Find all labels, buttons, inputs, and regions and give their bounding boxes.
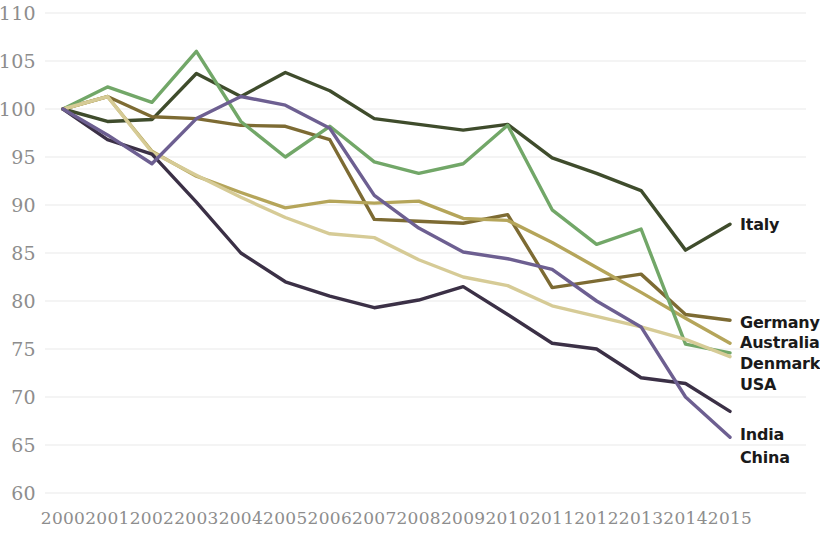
x-tick-label-2011: 2011 [530, 508, 574, 528]
series-label-china[interactable]: China [740, 448, 790, 467]
y-axis: 6065707580859095100105110 [0, 0, 36, 505]
series-label-denmark[interactable]: Denmark [740, 354, 820, 373]
series-label-italy[interactable]: Italy [740, 215, 779, 234]
x-tick-label-2013: 2013 [619, 508, 663, 528]
series-label-australia[interactable]: Australia [740, 333, 820, 352]
series-line-italy[interactable] [63, 73, 730, 251]
x-tick-label-2015: 2015 [708, 508, 752, 528]
y-tick-label-90: 90 [11, 194, 36, 216]
x-tick-label-2008: 2008 [396, 508, 440, 528]
y-tick-label-85: 85 [11, 242, 36, 264]
y-tick-label-105: 105 [0, 50, 36, 72]
x-tick-label-2000: 2000 [41, 508, 85, 528]
x-tick-label-2001: 2001 [85, 508, 129, 528]
x-tick-label-2006: 2006 [308, 508, 352, 528]
y-tick-label-110: 110 [0, 2, 36, 24]
x-tick-label-2007: 2007 [352, 508, 396, 528]
series-label-germany[interactable]: Germany [740, 313, 820, 332]
x-tick-label-2012: 2012 [574, 508, 618, 528]
y-tick-label-70: 70 [11, 386, 36, 408]
y-tick-label-100: 100 [0, 98, 36, 120]
x-tick-label-2004: 2004 [219, 508, 263, 528]
x-tick-label-2002: 2002 [130, 508, 174, 528]
x-tick-label-2005: 2005 [263, 508, 307, 528]
y-tick-label-75: 75 [11, 338, 36, 360]
y-tick-label-80: 80 [11, 290, 36, 312]
series-label-usa[interactable]: USA [740, 375, 776, 394]
x-tick-label-2009: 2009 [441, 508, 485, 528]
x-tick-label-2010: 2010 [485, 508, 529, 528]
y-tick-label-95: 95 [11, 146, 36, 168]
x-tick-label-2003: 2003 [174, 508, 218, 528]
series-label-india[interactable]: India [740, 425, 784, 444]
y-tick-label-65: 65 [11, 434, 36, 456]
y-tick-label-60: 60 [11, 482, 36, 504]
series-line-china[interactable] [63, 97, 730, 438]
x-tick-label-2014: 2014 [663, 508, 707, 528]
series-line-usa[interactable] [63, 97, 730, 357]
